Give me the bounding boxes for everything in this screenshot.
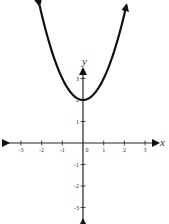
x-tick-label: 1 (102, 147, 105, 153)
x-axis-label: x (159, 136, 165, 148)
x-tick-label: -1 (60, 147, 65, 153)
x-tick-label: 0 (86, 147, 89, 153)
parabola-graph: -3-2-10123-3-2-1123 x y (0, 0, 169, 224)
y-tick-label: -1 (74, 162, 79, 168)
y-tick-label: 3 (76, 76, 79, 82)
y-tick-label: -3 (74, 205, 79, 211)
y-tick-label: -2 (74, 183, 79, 189)
x-tick-label: -3 (18, 147, 23, 153)
x-tick-label: -2 (39, 147, 44, 153)
x-tick-label: 2 (123, 147, 126, 153)
y-axis-label: y (81, 55, 87, 67)
y-tick-label: 1 (76, 119, 79, 125)
x-tick-label: 3 (144, 147, 147, 153)
axes (8, 69, 158, 220)
